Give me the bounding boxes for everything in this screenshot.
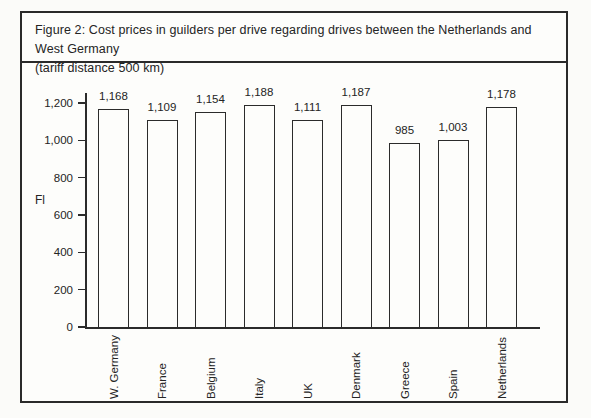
y-tick [78,252,85,254]
bar [292,120,323,329]
y-tick-label: 0 [25,319,73,335]
bar-value-label: 1,111 [278,100,338,114]
y-tick-label: 1,000 [25,132,73,148]
x-category-label: UK [301,383,315,399]
y-tick-label: 800 [25,170,73,186]
bar [389,143,420,328]
bar-value-label: 1,178 [472,87,532,101]
bar [486,107,517,328]
y-tick [78,177,85,179]
x-category-label: Denmark [349,352,363,399]
y-tick-label: 400 [25,244,73,260]
bar-value-label: 1,188 [229,85,289,99]
y-axis-line [85,93,87,329]
y-tick [78,326,85,328]
bar [438,140,469,329]
x-category-label: Spain [446,370,460,399]
figure-title: Figure 2: Cost prices in guilders per dr… [22,13,566,63]
y-tick [78,289,85,291]
bar [244,105,275,328]
bar [195,112,226,329]
y-tick-label: 1,200 [25,95,73,111]
x-category-label: Italy [252,378,266,399]
figure-frame: Figure 2: Cost prices in guilders per dr… [20,11,568,403]
x-category-label: France [155,363,169,399]
bar-value-label: 1,003 [423,120,483,134]
bar-value-label: 1,187 [326,85,386,99]
y-axis-title: Fl [35,193,45,207]
figure-title-line-1: Figure 2: Cost prices in guilders per dr… [35,21,553,59]
y-tick [78,140,85,142]
x-category-label: Netherlands [495,337,509,399]
chart-area: Fl 02004006008001,0001,2001,168W. German… [22,65,566,401]
y-tick-label: 600 [25,207,73,223]
x-category-label: Belgium [204,357,218,399]
bar [147,120,178,329]
bar [341,105,372,328]
x-category-label: W. Germany [107,335,121,399]
y-tick [78,214,85,216]
x-category-label: Greece [398,361,412,399]
bar [98,109,129,329]
y-tick-label: 200 [25,282,73,298]
